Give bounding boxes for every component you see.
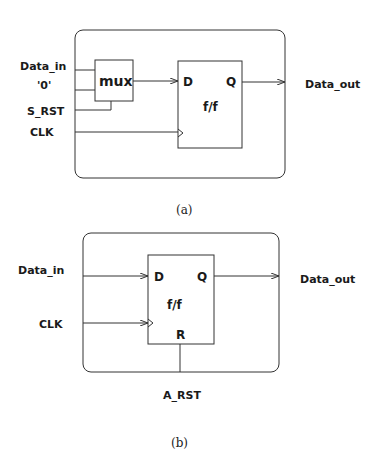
- ff-label-b: f/f: [167, 298, 183, 312]
- ff-label-a: f/f: [203, 100, 219, 114]
- caption-b: (b): [171, 436, 188, 450]
- mux-label: mux: [99, 73, 133, 89]
- clock-triangle-a: [178, 129, 183, 137]
- caption-a: (a): [176, 203, 193, 217]
- ff-q-pin-a: Q: [226, 75, 236, 89]
- label-data-in-a: Data_in: [20, 60, 66, 73]
- label-s-rst-a: S_RST: [27, 105, 65, 118]
- ff-r-pin-b: R: [176, 328, 185, 342]
- figure-b: Data_in CLK D Q f/f R Data_out A_RST (b): [18, 233, 355, 450]
- ff-q-pin-b: Q: [197, 270, 207, 284]
- label-a-rst-b: A_RST: [163, 389, 201, 402]
- ff-d-pin-b: D: [154, 270, 164, 284]
- outer-boundary-a: [75, 30, 285, 178]
- label-data-in-b: Data_in: [18, 264, 64, 277]
- clock-triangle-b: [148, 319, 153, 327]
- ff-d-pin-a: D: [183, 75, 193, 89]
- label-zero-a: '0': [37, 79, 51, 92]
- label-data-out-b: Data_out: [300, 273, 355, 286]
- label-clk-a: CLK: [30, 126, 54, 139]
- label-clk-b: CLK: [39, 318, 63, 331]
- label-data-out-a: Data_out: [305, 78, 360, 91]
- wire-s-rst-a: [75, 101, 111, 110]
- figure-a: Data_in '0' S_RST CLK mux D Q f/f Data_o…: [20, 30, 360, 217]
- diagram-canvas: Data_in '0' S_RST CLK mux D Q f/f Data_o…: [0, 0, 377, 466]
